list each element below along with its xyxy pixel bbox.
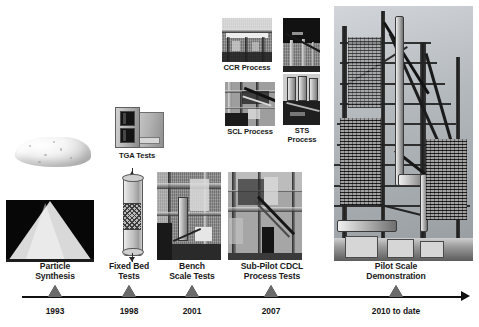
- tga-window-upper: [120, 111, 135, 126]
- image-fixed-bed-reactor: [112, 168, 152, 262]
- caption-ccr-process: CCR Process: [214, 64, 280, 73]
- plant-column-center: [381, 11, 385, 246]
- timeline-year-1993: 1993: [25, 306, 85, 316]
- image-ccr-process: [222, 18, 272, 62]
- timeline-axis-arrowhead-icon: [461, 291, 470, 301]
- sts-vessel-right: [309, 78, 318, 101]
- plant-pipe-cluster-left: [340, 118, 382, 205]
- image-pilot-scale-plant: [334, 6, 473, 261]
- plant-base-skid-center: [387, 239, 414, 259]
- plant-pipe-cluster-right: [426, 139, 468, 221]
- ccr-base: [222, 52, 272, 62]
- image-sts-process-upper: [283, 18, 320, 72]
- cdcl-frame-column: [232, 172, 236, 260]
- timeline-figure: TGA Tests CCR Proc: [0, 0, 479, 327]
- milestone-label-bench-scale-tests: Bench Scale Tests: [152, 262, 232, 282]
- image-particle-synthesis-powder-cone: [6, 200, 94, 262]
- milestone-label-particle-synthesis: Particle Synthesis: [15, 262, 95, 282]
- timeline-marker-1998: [122, 285, 136, 297]
- tga-window-lower: [120, 128, 135, 143]
- timeline-marker-1993: [48, 285, 62, 297]
- cdcl-stair-shadow: [262, 227, 274, 253]
- milestone-label-sub-pilot-cdcl-process-tests: Sub-Pilot CDCL Process Tests: [224, 262, 320, 282]
- caption-tga-tests: TGA Tests: [104, 152, 170, 161]
- milestone-label-pilot-scale-demonstration: Pilot Scale Demonstration: [348, 262, 444, 282]
- image-particle-synthesis-powder-pile: [10, 128, 96, 176]
- plant-base-skid-left: [345, 236, 378, 258]
- caption-sts-process: STS Process: [278, 127, 326, 144]
- timeline-year-2007: 2007: [241, 306, 301, 316]
- cdcl-floor: [228, 253, 302, 260]
- powder-speck: [60, 148, 62, 151]
- timeline-marker-2007: [264, 285, 278, 297]
- sts-vessel-mid: [298, 76, 307, 101]
- reactor-packed-bed: [123, 203, 141, 230]
- timeline-year-2010-to-date: 2010 to date: [353, 306, 439, 316]
- image-bench-scale-rig: [157, 172, 221, 260]
- plant-riser-pipe: [395, 16, 404, 186]
- plant-pipe-cluster-upper: [348, 37, 381, 108]
- image-sub-pilot-cdcl: [228, 172, 302, 260]
- powder-speck: [38, 161, 41, 163]
- rig-frame-rail: [157, 183, 221, 189]
- timeline-marker-2010: [389, 285, 403, 297]
- timeline-year-2001: 2001: [162, 306, 222, 316]
- sts-vessel-left: [287, 77, 296, 101]
- image-tga-instrument: [108, 105, 166, 151]
- tga-furnace-tower: [115, 107, 140, 149]
- rig-shadow-region: [157, 223, 172, 260]
- powder-speck: [29, 145, 31, 147]
- powder-cone-highlight: [25, 203, 65, 261]
- plant-lower-pipe: [337, 220, 397, 232]
- caption-scl-process: SCL Process: [218, 128, 282, 137]
- timeline-year-1998: 1998: [99, 306, 159, 316]
- image-scl-process: [225, 82, 275, 126]
- reactor-cap-top: [122, 174, 143, 183]
- image-sts-process-lower: [283, 74, 320, 125]
- timeline-marker-2001: [185, 285, 199, 297]
- rig-floor: [172, 244, 221, 260]
- rig-control-panel: [190, 179, 209, 211]
- plant-base-skid-right: [420, 241, 444, 258]
